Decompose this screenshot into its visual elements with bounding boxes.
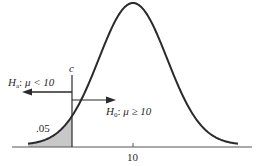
normal-curve xyxy=(28,3,238,144)
null-hyp-symbol: H xyxy=(106,105,114,117)
rejection-area-label: .05 xyxy=(36,123,50,134)
critical-value-label: c xyxy=(69,63,74,74)
alt-hyp-colon: : xyxy=(19,76,22,88)
arrow-right-icon xyxy=(106,97,116,104)
alt-hyp-symbol: H xyxy=(8,76,16,88)
null-hyp-colon: : xyxy=(117,105,120,117)
null-hypothesis-label: H0: μ ≥ 10 xyxy=(106,106,151,119)
alt-hyp-statement: μ < 10 xyxy=(25,76,54,88)
alternative-hypothesis-label: Ha: μ < 10 xyxy=(8,77,54,90)
axis-tick-label-10: 10 xyxy=(127,152,138,163)
null-hyp-statement: μ ≥ 10 xyxy=(123,105,151,117)
